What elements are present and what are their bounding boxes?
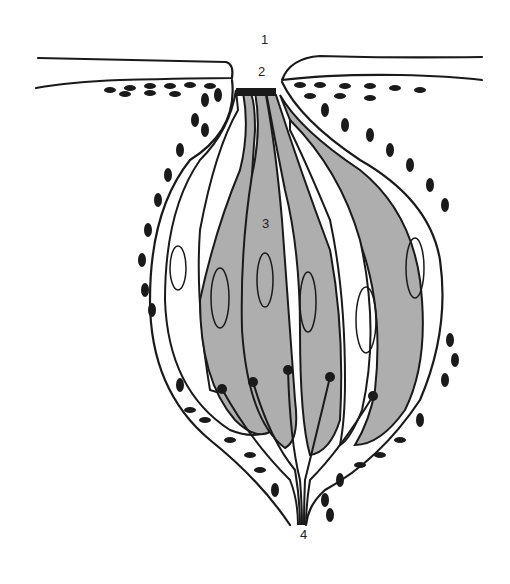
taste-bud-diagram: [0, 0, 510, 584]
epithelium-left: [36, 58, 232, 88]
label-1: 1: [261, 32, 268, 47]
label-3: 3: [262, 216, 269, 231]
label-2: 2: [258, 64, 265, 79]
label-4: 4: [300, 527, 307, 542]
epithelium-right: [282, 56, 482, 80]
